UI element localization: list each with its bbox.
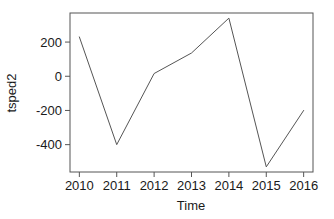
plot-panel-background	[70, 13, 313, 172]
y-tick-label: -200	[36, 103, 62, 118]
x-tick-label: 2011	[103, 178, 131, 193]
y-tick-label: 200	[40, 35, 62, 50]
x-tick-label: 2014	[214, 178, 243, 193]
x-tick-label: 2012	[140, 178, 169, 193]
y-axis-tick-labels: 2000-200-400	[36, 35, 62, 153]
x-tick-label: 2015	[252, 178, 281, 193]
y-axis-title: tsped2	[4, 73, 19, 112]
x-tick-label: 2013	[177, 178, 206, 193]
x-tick-label: 2016	[289, 178, 318, 193]
chart-plot-area: 2000-200-400 201020112012201320142015201…	[0, 0, 334, 219]
x-axis-ticks	[79, 172, 303, 177]
line-chart-svg: 2000-200-400 201020112012201320142015201…	[0, 0, 334, 219]
y-tick-label: -400	[36, 137, 62, 152]
x-tick-label: 2010	[65, 178, 94, 193]
y-axis-ticks	[65, 42, 70, 145]
y-tick-label: 0	[55, 69, 62, 84]
x-axis-title: Time	[177, 198, 205, 213]
x-axis-tick-labels: 2010201120122013201420152016	[65, 178, 318, 193]
